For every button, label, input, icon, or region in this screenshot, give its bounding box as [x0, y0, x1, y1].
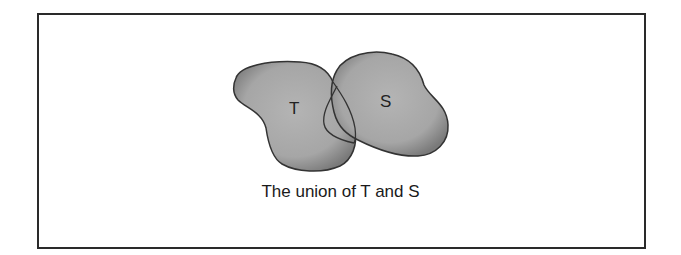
figure-caption: The union of T and S: [0, 182, 681, 202]
set-t-label: T: [289, 99, 299, 119]
union-diagram: [0, 0, 681, 255]
set-s-label: S: [380, 92, 391, 112]
